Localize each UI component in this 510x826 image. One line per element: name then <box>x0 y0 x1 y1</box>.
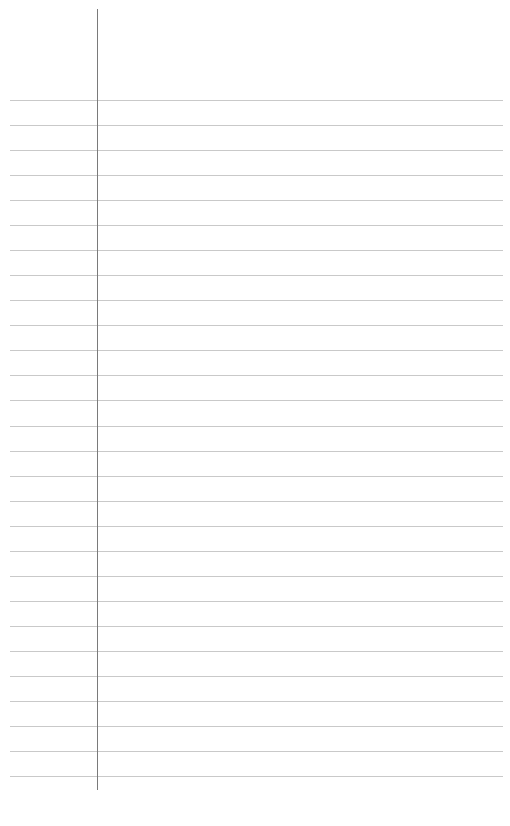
ruled-line <box>10 125 503 126</box>
ruled-line <box>10 325 503 326</box>
ruled-line <box>10 751 503 752</box>
ruled-line <box>10 726 503 727</box>
ruled-line <box>10 375 503 376</box>
lined-paper-page <box>0 0 510 826</box>
ruled-line <box>10 626 503 627</box>
ruled-line <box>10 676 503 677</box>
ruled-line <box>10 250 503 251</box>
ruled-line <box>10 225 503 226</box>
ruled-line <box>10 651 503 652</box>
ruled-line <box>10 100 503 101</box>
ruled-line <box>10 200 503 201</box>
ruled-line <box>10 776 503 777</box>
ruled-line <box>10 501 503 502</box>
ruled-line <box>10 426 503 427</box>
ruled-line <box>10 476 503 477</box>
ruled-line <box>10 175 503 176</box>
ruled-line <box>10 350 503 351</box>
ruled-line <box>10 701 503 702</box>
margin-line <box>97 9 98 790</box>
ruled-line <box>10 601 503 602</box>
ruled-line <box>10 526 503 527</box>
ruled-line <box>10 551 503 552</box>
ruled-line <box>10 300 503 301</box>
ruled-line <box>10 275 503 276</box>
ruled-line <box>10 576 503 577</box>
ruled-line <box>10 451 503 452</box>
ruled-line <box>10 400 503 401</box>
ruled-line <box>10 150 503 151</box>
